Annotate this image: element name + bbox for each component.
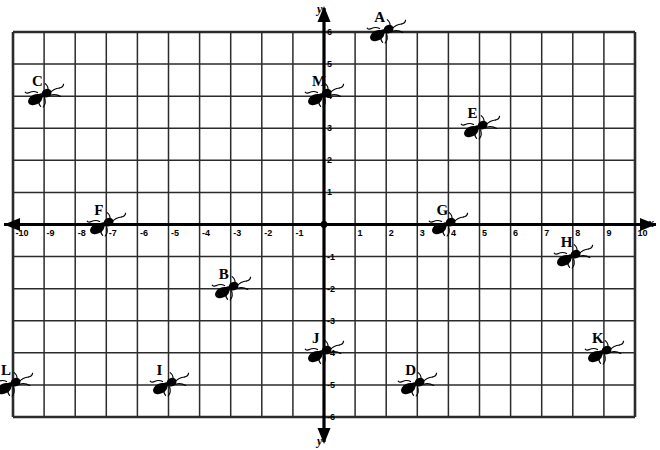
x-tick-3: 3: [420, 228, 425, 238]
ant-label-e: E: [468, 106, 478, 121]
x-axis-label: x: [648, 216, 654, 231]
x-tick-1: 1: [358, 228, 363, 238]
x-tick--2: -2: [264, 228, 272, 238]
ant-label-h: H: [561, 235, 573, 250]
ant-label-i: I: [157, 363, 163, 378]
ant-icon: [23, 81, 65, 111]
ant-label-b: B: [219, 267, 229, 282]
coordinate-plane-diagram: -10-9-8-7-6-5-4-3-2-112345678910-6-5-4-3…: [0, 0, 660, 450]
ant-icon: [210, 274, 252, 304]
ant-label-f: F: [94, 203, 103, 218]
y-tick--3: -3: [327, 316, 335, 326]
x-tick--3: -3: [233, 228, 241, 238]
x-tick-6: 6: [513, 228, 518, 238]
ant-icon: [427, 210, 469, 240]
ant-icon: [85, 210, 127, 240]
x-tick--4: -4: [202, 228, 210, 238]
x-tick--10: -10: [16, 228, 29, 238]
x-tick-9: 9: [606, 228, 611, 238]
y-tick--1: -1: [327, 252, 335, 262]
ant-label-m: M: [312, 74, 326, 89]
x-tick--5: -5: [171, 228, 179, 238]
ant-label-g: G: [436, 203, 448, 218]
ant-icon: [365, 17, 407, 47]
x-tick--9: -9: [47, 228, 55, 238]
x-tick--1: -1: [295, 228, 303, 238]
y-tick-3: 3: [327, 123, 332, 133]
x-tick-10: 10: [638, 228, 648, 238]
y-tick-6: 6: [327, 27, 332, 37]
y-tick-1: 1: [327, 187, 332, 197]
ant-icon: [396, 370, 438, 400]
ant-label-c: C: [32, 74, 43, 89]
y-tick--5: -5: [327, 380, 335, 390]
x-tick-7: 7: [544, 228, 549, 238]
x-tick--6: -6: [140, 228, 148, 238]
y-axis-label-bottom: y: [317, 434, 322, 449]
ant-label-j: J: [312, 331, 320, 346]
x-tick-5: 5: [482, 228, 487, 238]
ant-label-k: K: [592, 331, 604, 346]
x-tick-2: 2: [389, 228, 394, 238]
ant-label-l: L: [1, 363, 11, 378]
y-tick-5: 5: [327, 59, 332, 69]
ant-label-d: D: [405, 363, 416, 378]
y-tick--6: -6: [327, 412, 335, 422]
ant-label-a: A: [374, 10, 385, 25]
ant-icon: [303, 338, 345, 368]
y-axis-label: y: [317, 2, 322, 17]
x-tick-8: 8: [575, 228, 580, 238]
ant-icon: [148, 370, 190, 400]
y-tick-2: 2: [327, 155, 332, 165]
ant-icon: [552, 242, 594, 272]
ant-icon: [459, 113, 501, 143]
y-tick--2: -2: [327, 284, 335, 294]
ant-icon: [583, 338, 625, 368]
